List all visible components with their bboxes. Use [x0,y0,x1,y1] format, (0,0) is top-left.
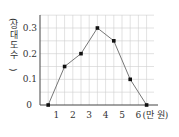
x-tick-label: 4 [103,110,109,120]
x-tick-label: 1 [54,110,60,120]
data-point [96,26,100,30]
frequency-polygon-chart: 1234560.10.20.30 (상대도수) (만 원) [0,0,179,137]
x-tick-label: 6 [136,110,142,120]
data-point [112,39,116,43]
data-point [79,52,83,56]
y-axis-label: (상대도수) [8,18,18,72]
y-tick-label: 0.2 [23,49,37,59]
x-tick-label: 3 [86,110,92,120]
x-tick-label: 2 [70,110,76,120]
y-tick-label: 0.1 [23,74,37,84]
y-tick-label: 0.3 [23,23,38,33]
origin-label: 0 [26,100,32,110]
y-axis-label-char: 대 [10,30,18,40]
data-point [145,103,149,107]
x-axis-label: (만 원) [142,110,168,120]
y-axis-label-char: 도 [10,40,18,50]
y-axis-label-char: ) [8,68,18,72]
y-axis-label-char: 수 [10,50,18,60]
data-point [128,78,132,82]
data-point [63,65,67,69]
data-point [46,103,50,107]
x-tick-label: 5 [119,110,125,120]
y-axis-label-char: 상 [10,20,18,30]
